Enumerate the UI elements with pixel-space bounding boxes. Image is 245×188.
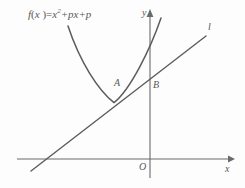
origin-label: O: [139, 162, 146, 172]
y-axis-label: y: [142, 8, 146, 18]
point-b-label: B: [153, 80, 159, 90]
function-annotation: f(x )=x2+px+p: [28, 9, 91, 20]
y-axis-arrow: [147, 9, 154, 17]
x-axis-arrow: [228, 156, 235, 163]
line-l-curve: [31, 36, 206, 171]
x-axis-label: x: [225, 164, 229, 174]
line-l-label: l: [208, 22, 211, 32]
point-a-label: A: [114, 78, 120, 88]
parabola-curve: [68, 18, 161, 103]
y-axis: [147, 9, 154, 178]
math-figure-canvas: f(x )=x2+px+p A B l y x O: [0, 0, 245, 188]
